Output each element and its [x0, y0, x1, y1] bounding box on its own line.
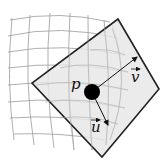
sphere-longitude-line — [28, 15, 34, 145]
point-p-label: p — [71, 75, 81, 93]
sphere-longitude-line — [9, 18, 14, 140]
diagram: p v u — [0, 0, 167, 168]
diagram-canvas: p v u — [0, 0, 167, 168]
sphere-latitude-line — [10, 15, 110, 22]
point-p — [84, 84, 100, 100]
vector-u-label: u — [91, 118, 101, 136]
vector-v-label: v — [131, 68, 140, 86]
